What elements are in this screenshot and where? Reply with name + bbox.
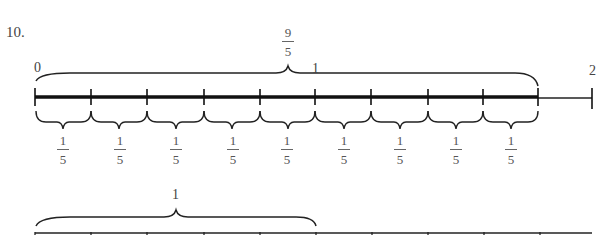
top-brace-fraction: 9 5	[281, 26, 295, 58]
segment-fraction-2: 15	[113, 134, 127, 166]
number-line-diagram	[0, 0, 599, 235]
bottom-brace	[36, 210, 316, 226]
segment-fraction-7: 15	[393, 134, 407, 166]
segment-braces	[36, 111, 538, 129]
segment-fraction-9: 15	[504, 134, 518, 166]
segment-fraction-5: 15	[280, 134, 294, 166]
label-zero: 0	[34, 61, 41, 75]
segment-fraction-1: 15	[56, 134, 70, 166]
segment-fraction-3: 15	[169, 134, 183, 166]
segment-fraction-4: 15	[226, 134, 240, 166]
bottom-brace-label: 1	[172, 188, 179, 202]
top-brace	[36, 66, 538, 86]
label-one: 1	[312, 62, 319, 76]
segment-fraction-6: 15	[337, 134, 351, 166]
label-two: 2	[589, 64, 596, 78]
segment-fraction-8: 15	[449, 134, 463, 166]
